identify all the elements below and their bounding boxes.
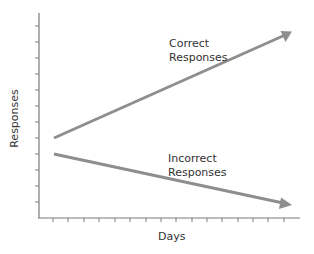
x-axis-ticks bbox=[53, 218, 284, 222]
x-axis-label: Days bbox=[158, 230, 185, 243]
incorrect-annotation-line1: Incorrect bbox=[168, 152, 217, 165]
chart-canvas bbox=[0, 0, 314, 254]
incorrect-annotation-line2: Responses bbox=[168, 166, 227, 179]
arrow-head-icon bbox=[279, 198, 292, 210]
correct-annotation-line2: Responses bbox=[169, 51, 228, 64]
correct-annotation-line1: Correct bbox=[169, 37, 209, 50]
y-axis-label: Responses bbox=[8, 89, 21, 149]
